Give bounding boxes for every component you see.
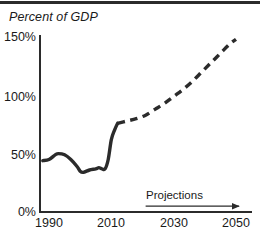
plot-area xyxy=(0,0,260,241)
data-line-historical xyxy=(43,123,118,172)
chart-page: Percent of GDP 150% 100% 50% 0% 1990 201… xyxy=(0,0,260,241)
data-line-projected xyxy=(118,39,236,123)
